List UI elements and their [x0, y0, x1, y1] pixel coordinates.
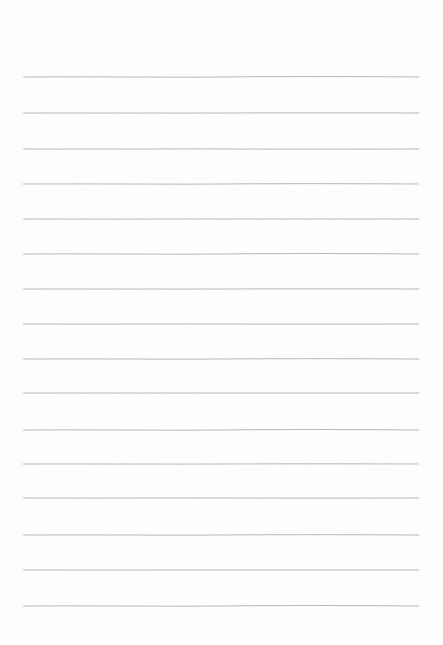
ruled-line	[23, 324, 419, 325]
ruled-line	[23, 77, 419, 78]
ruled-line	[23, 535, 419, 536]
ruled-line	[23, 254, 419, 255]
ruled-line	[23, 393, 419, 394]
ruled-line	[23, 498, 419, 499]
ruled-line	[23, 219, 419, 220]
ruled-line	[23, 289, 419, 290]
ruled-line	[23, 606, 419, 607]
ruled-line	[23, 184, 419, 185]
lined-paper-page	[0, 0, 443, 645]
ruled-line	[23, 149, 419, 150]
ruled-line	[23, 570, 419, 571]
ruled-line	[23, 430, 419, 431]
ruled-line	[23, 113, 419, 114]
ruled-line	[23, 359, 419, 360]
ruled-line	[23, 464, 419, 465]
